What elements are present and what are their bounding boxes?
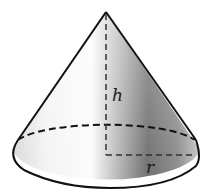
- cone-diagram: h r: [0, 0, 216, 194]
- radius-label: r: [146, 157, 155, 177]
- height-label: h: [112, 85, 123, 105]
